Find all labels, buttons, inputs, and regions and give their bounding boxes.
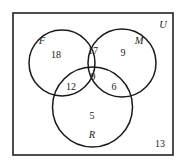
region-r-only: 5 bbox=[90, 110, 95, 121]
region-m-and-r: 6 bbox=[112, 81, 117, 92]
region-outside: 13 bbox=[155, 138, 165, 149]
region-f-only: 18 bbox=[51, 49, 61, 60]
region-f-m-r: 9 bbox=[91, 71, 96, 82]
region-m-only: 9 bbox=[121, 47, 126, 58]
venn-diagram: U F M R 18 17 9 12 9 6 5 13 bbox=[0, 0, 181, 161]
universe-label: U bbox=[159, 19, 168, 30]
set-m-circle bbox=[88, 29, 156, 97]
region-f-and-m: 17 bbox=[88, 45, 98, 56]
set-r-label: R bbox=[88, 129, 96, 140]
set-m-label: M bbox=[134, 35, 145, 46]
set-f-label: F bbox=[38, 35, 46, 46]
region-f-and-r: 12 bbox=[66, 81, 76, 92]
